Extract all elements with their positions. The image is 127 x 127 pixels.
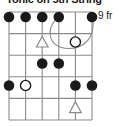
marker-s1-f1 [4, 12, 15, 23]
chord-diagram: Tonic on 5th String [0, 0, 127, 127]
marker-s3-f2 [36, 36, 48, 47]
marker-s4-f1 [54, 12, 65, 23]
marker-s3-f1 [37, 12, 48, 23]
marker-s6-f1 [87, 12, 98, 23]
marker-s2-f4 [21, 80, 31, 90]
marker-s4-f3 [54, 58, 65, 69]
marker-s3-f3 [37, 58, 48, 69]
marker-s5-f5 [70, 102, 82, 113]
marker-s2-f1 [20, 12, 31, 23]
fret-position-label: 9 fr [98, 11, 112, 21]
filled-dots [4, 12, 98, 91]
marker-s5-f2 [70, 37, 80, 47]
marker-s5-f4 [70, 80, 81, 91]
marker-s1-f4 [4, 80, 15, 91]
marker-s6-f4 [87, 80, 98, 91]
